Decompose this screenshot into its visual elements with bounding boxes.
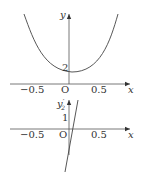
bottom-origin: O — [59, 129, 67, 140]
bottom-plot: y′2 1 −0.5 O 0.5 x — [10, 98, 134, 172]
top-x-label: x — [128, 84, 134, 95]
top-plot: y 2 −0.5 O 0.5 x — [10, 9, 134, 95]
top-curve — [24, 14, 118, 72]
top-neg-tick: −0.5 — [20, 84, 44, 95]
bottom-x-label: x — [128, 129, 134, 140]
top-y-mark: 2 — [62, 62, 68, 73]
bottom-neg-tick: −0.5 — [20, 129, 44, 140]
top-pos-tick: 0.5 — [91, 84, 107, 95]
figure: y 2 −0.5 O 0.5 x y′2 1 −0.5 O 0.5 x — [0, 0, 142, 178]
bottom-y-label: y′2 — [56, 98, 65, 111]
bottom-pos-tick: 0.5 — [91, 129, 107, 140]
bottom-y-mark: 1 — [62, 112, 68, 123]
top-origin: O — [61, 84, 69, 95]
top-y-label: y — [59, 9, 66, 20]
